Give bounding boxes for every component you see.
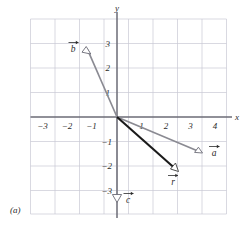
y-tick-label: −1 — [101, 137, 112, 147]
y-tick-label: 2 — [106, 63, 111, 73]
y-axis-label: y — [114, 3, 119, 13]
y-tick-label: 3 — [105, 39, 111, 49]
x-tick-label: −3 — [37, 121, 48, 131]
vector-r-label: r — [171, 177, 175, 187]
x-axis-label: x — [234, 112, 239, 122]
vector-a-label: a — [212, 148, 217, 158]
vector-diagram-figure: x y −3 −2 −1 1 2 3 4 3 2 1 −1 −2 −3 b — [0, 0, 252, 229]
y-tick-label: −2 — [101, 161, 112, 171]
x-tick-label: −2 — [62, 121, 73, 131]
x-tick-label: 3 — [187, 121, 193, 131]
figure-caption: (a) — [10, 205, 21, 215]
x-tick-label: 4 — [213, 121, 218, 131]
coordinate-plot: x y −3 −2 −1 1 2 3 4 3 2 1 −1 −2 −3 b — [0, 0, 252, 229]
x-tick-label: −1 — [86, 121, 97, 131]
vector-b-label: b — [71, 44, 76, 54]
x-tick-label: 2 — [164, 121, 169, 131]
y-tick-label: −3 — [101, 186, 112, 196]
